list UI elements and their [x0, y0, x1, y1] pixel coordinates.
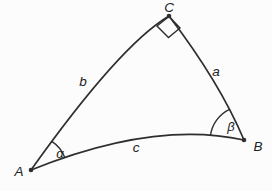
- vertex-label-c: C: [164, 0, 174, 15]
- vertex-dot-a: [29, 168, 34, 173]
- angle-label-alpha: α: [56, 146, 64, 161]
- side-label-c: c: [133, 140, 140, 155]
- triangle-figure-svg: A B C b a c α β: [0, 0, 272, 191]
- vertex-dot-b: [242, 138, 247, 143]
- figure-background: [0, 0, 272, 191]
- triangle-diagram: A B C b a c α β: [0, 0, 272, 191]
- side-label-a: a: [212, 64, 220, 79]
- vertex-label-a: A: [13, 164, 23, 179]
- side-label-b: b: [79, 74, 87, 89]
- angle-label-beta: β: [226, 119, 235, 134]
- vertex-label-b: B: [253, 139, 262, 154]
